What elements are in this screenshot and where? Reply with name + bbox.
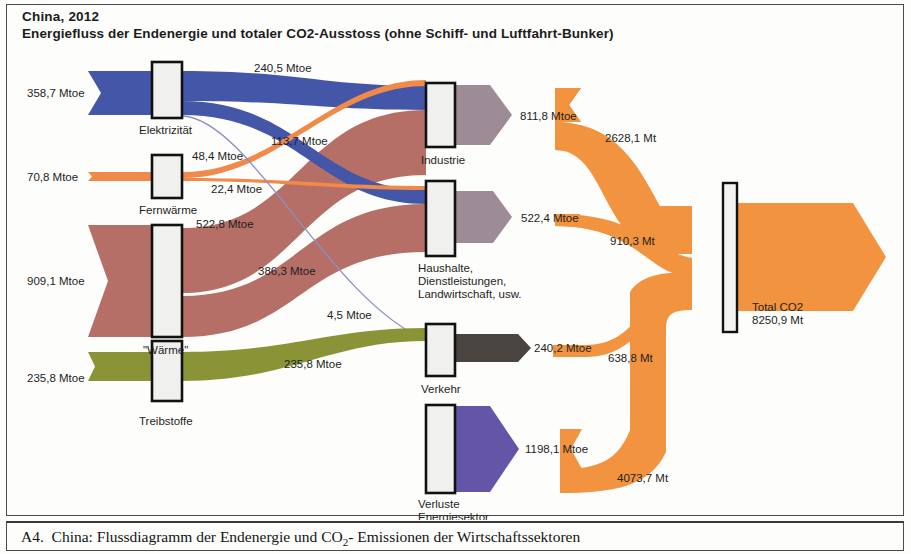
- label-flow-district-heat-industry: 48,4 Mtoe: [192, 150, 243, 162]
- label-output-transport: 240,2 Mtoe: [534, 342, 592, 354]
- label-node-heat: "Wärme": [143, 344, 188, 356]
- label-output-losses: 1198,1 Mtoe: [525, 443, 588, 455]
- label-co2-transport: 638,8 Mt: [608, 352, 654, 364]
- caption-tail: - Emissionen der Wirtschaftssektoren: [348, 528, 580, 545]
- caption-frame: A4. China: Flussdiagramm der Endenergie …: [6, 521, 904, 551]
- label-input-district-heat: 70,8 Mtoe: [27, 171, 78, 183]
- label-output-industry: 811,8 Mtoe: [520, 110, 577, 122]
- node-transport[interactable]: [426, 324, 455, 376]
- label-flow-fuels-transport: 235,8 Mtoe: [284, 358, 342, 370]
- label-flow-electricity-transport: 4,5 Mtoe: [327, 309, 372, 321]
- node-electricity[interactable]: [152, 62, 182, 118]
- label-node-district-heat: Fernwärme: [139, 204, 197, 216]
- node-households[interactable]: [426, 181, 455, 256]
- label-node-losses-l1: Verluste: [418, 498, 460, 510]
- flow-output-total-co2: [737, 203, 886, 311]
- label-input-fuels: 235,8 Mtoe: [27, 372, 85, 384]
- label-node-industry: Industrie: [421, 154, 465, 166]
- figure-page: China, 2012 Energiefluss der Endenergie …: [0, 0, 911, 554]
- flow-input-district-heat: [88, 172, 152, 181]
- label-node-losses-l2: Energiesektor: [418, 511, 489, 520]
- label-input-electricity: 358,7 Mtoe: [27, 87, 85, 99]
- label-output-households: 522,4 Mtoe: [521, 212, 579, 224]
- caption-main: China: Flussdiagramm der Endenergie und …: [52, 528, 343, 545]
- label-flow-electricity-households: 113,7 Mtoe: [271, 135, 328, 147]
- label-flow-heat-households: 386,3 Mtoe: [258, 265, 316, 277]
- label-co2-losses: 4073,7 Mt: [617, 472, 669, 484]
- label-flow-electricity-industry: 240,5 Mtoe: [254, 62, 312, 74]
- flow-output-transport: [455, 334, 531, 362]
- flow-input-heat: [88, 225, 152, 337]
- sankey-diagram: 358,7 Mtoe 70,8 Mtoe 909,1 Mtoe 235,8 Mt…: [0, 0, 911, 520]
- label-node-households-l3: Landwirtschaft, usw.: [418, 288, 522, 300]
- label-node-total-co2-l2: 8250,9 Mt: [752, 314, 804, 326]
- node-losses[interactable]: [426, 405, 455, 493]
- flow-output-households: [455, 191, 512, 243]
- node-district-heat[interactable]: [152, 155, 182, 198]
- caption-id: A4.: [21, 528, 44, 545]
- label-co2-households: 910,3 Mt: [610, 235, 656, 247]
- label-flow-heat-industry: 522,8 Mtoe: [196, 218, 254, 230]
- node-heat[interactable]: [152, 225, 182, 337]
- flow-fuels-to-transport: [182, 328, 426, 381]
- label-node-fuels: Treibstoffe: [139, 415, 193, 427]
- label-node-households-l2: Dienstleistungen,: [418, 275, 506, 287]
- label-co2-industry: 2628,1 Mt: [605, 132, 657, 144]
- label-flow-district-heat-households: 22,4 Mtoe: [211, 183, 262, 195]
- flow-co2-losses: [560, 272, 692, 493]
- label-node-total-co2-l1: Total CO2: [752, 301, 803, 313]
- flow-output-industry: [455, 85, 512, 145]
- flow-output-losses: [455, 406, 519, 492]
- label-node-transport: Verkehr: [421, 383, 461, 395]
- figure-caption: A4. China: Flussdiagramm der Endenergie …: [21, 528, 580, 548]
- flow-input-fuels: [88, 352, 152, 381]
- flow-input-electricity: [88, 71, 152, 115]
- label-input-heat: 909,1 Mtoe: [27, 275, 85, 287]
- node-total-co2[interactable]: [723, 183, 737, 332]
- node-industry[interactable]: [426, 83, 455, 147]
- label-node-households-l1: Haushalte,: [418, 262, 473, 274]
- label-node-electricity: Elektrizität: [139, 124, 193, 136]
